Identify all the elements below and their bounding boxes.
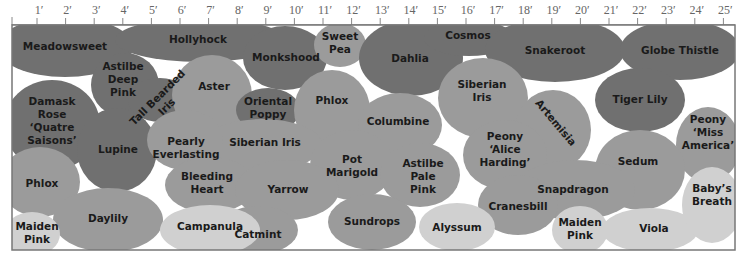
ruler-tick-label: 12′ (346, 3, 361, 17)
plant-bed-label: Pale (410, 170, 435, 182)
plant-bed-label: Pink (24, 233, 51, 245)
ruler-tick-label: 2′ (63, 3, 72, 17)
ruler-tick-label: 20′ (575, 3, 590, 17)
ruler-tick-label: 3′ (92, 3, 101, 17)
plant-bed-label: Snapdragon (537, 183, 609, 195)
ruler-tick-label: 25′ (718, 3, 733, 17)
plant-bed-label: ‘Miss (693, 126, 724, 138)
plant-bed-label: Rose (38, 108, 67, 120)
ruler-tick-label: 14′ (403, 3, 418, 17)
plant-bed-label: Heart (190, 183, 223, 195)
plant-bed-label: Phlox (316, 94, 349, 106)
plant-bed-label: Baby’s (692, 182, 732, 194)
ruler-tick-label: 13′ (375, 3, 390, 17)
ruler-tick-label: 6′ (178, 3, 187, 17)
ruler-tick-label: 18′ (518, 3, 533, 17)
plant-bed-label: Siberian (457, 78, 506, 90)
plant-beds: MeadowsweetHollyhockAstilbeDeepPinkTall … (0, 17, 742, 256)
plant-bed-label: Aster (198, 80, 231, 92)
plant-bed-label: Oriental (244, 95, 292, 107)
ruler-tick-label: 21′ (604, 3, 619, 17)
plant-bed-label: Pea (329, 43, 351, 55)
plant-bed-label: Pot (342, 153, 362, 165)
plant-bed-label: Poppy (250, 108, 287, 120)
plant-bed-label: Dahlia (391, 52, 429, 64)
foot-ruler: 1′2′3′4′5′6′7′8′9′10′11′12′13′14′15′16′1… (12, 3, 735, 25)
ruler-tick-label: 11′ (318, 3, 333, 17)
plant-bed-label: Breath (692, 195, 732, 207)
ruler-tick-label: 5′ (149, 3, 158, 17)
ruler-tick-label: 17′ (489, 3, 504, 17)
plant-bed-label: Bleeding (181, 170, 233, 182)
garden-plan-diagram: 1′2′3′4′5′6′7′8′9′10′11′12′13′14′15′16′1… (0, 0, 743, 256)
plant-bed-label: Pink (110, 86, 137, 98)
plant-bed-label: Deep (108, 73, 139, 85)
plant-bed-label: Columbine (367, 115, 430, 127)
ruler-tick-label: 19′ (546, 3, 561, 17)
plant-bed-label: ‘Alice (489, 143, 520, 155)
plant-bed-label: Sweet (322, 30, 359, 42)
plant-bed-label: Maiden (15, 220, 58, 232)
plant-bed-label: Siberian Iris (229, 136, 301, 148)
ruler-tick-label: 1′ (35, 3, 44, 17)
plant-bed-label: Viola (639, 222, 668, 234)
plant-bed-label: Sundrops (344, 215, 400, 227)
ruler-tick-label: 15′ (432, 3, 447, 17)
ruler-tick-label: 24′ (689, 3, 704, 17)
plant-bed-label: Lupine (98, 143, 138, 155)
ruler-tick-label: 10′ (289, 3, 304, 17)
plant-bed-label: Yarrow (267, 183, 309, 195)
plant-bed-label: Hollyhock (169, 33, 228, 45)
plant-bed-label: Saisons’ (27, 134, 76, 146)
plant-bed-label: Campanula (177, 220, 243, 232)
plant-bed-label: Meadowsweet (23, 40, 107, 52)
plant-bed-label: Cranesbill (488, 200, 547, 212)
ruler-tick-label: 8′ (235, 3, 244, 17)
garden-plan: 1′2′3′4′5′6′7′8′9′10′11′12′13′14′15′16′1… (0, 0, 743, 256)
ruler-tick-label: 16′ (461, 3, 476, 17)
plant-bed-label: Harding’ (479, 156, 530, 168)
plant-bed-label: Globe Thistle (641, 44, 719, 56)
plant-bed-label: Everlasting (153, 148, 220, 160)
plant-bed-label: Astilbe (102, 60, 143, 72)
ruler-tick-label: 9′ (263, 3, 272, 17)
plant-bed-label: Pink (567, 229, 594, 241)
ruler-tick-label: 22′ (632, 3, 647, 17)
plant-bed-label: Sedum (618, 155, 659, 167)
plant-bed-label: Marigold (326, 166, 378, 178)
plant-bed-label: Tiger Lily (613, 93, 668, 105)
plant-bed-label: Alyssum (432, 221, 482, 233)
plant-bed-label: Monkshood (252, 51, 320, 63)
plant-bed-label: Daylily (88, 212, 128, 224)
plant-bed-label: Damask (28, 95, 76, 107)
plant-bed-label: Astilbe (402, 157, 443, 169)
ruler-tick-label: 23′ (661, 3, 676, 17)
plant-bed-label: Phlox (26, 177, 59, 189)
plant-bed-label: Peony (690, 113, 727, 125)
plant-bed-label: Iris (473, 91, 492, 103)
plant-bed-label: Pink (410, 183, 437, 195)
plant-bed-label: Maiden (558, 216, 601, 228)
plant-bed-label: ‘Quatre (30, 121, 75, 133)
ruler-tick-label: 4′ (120, 3, 129, 17)
plant-bed-label: Snakeroot (525, 44, 586, 56)
plant-bed-label: America’ (682, 139, 734, 151)
ruler-tick-label: 7′ (206, 3, 215, 17)
plant-bed-label: Pearly (167, 135, 205, 147)
plant-bed-label: Peony (487, 130, 524, 142)
plant-bed-label: Cosmos (445, 29, 491, 41)
